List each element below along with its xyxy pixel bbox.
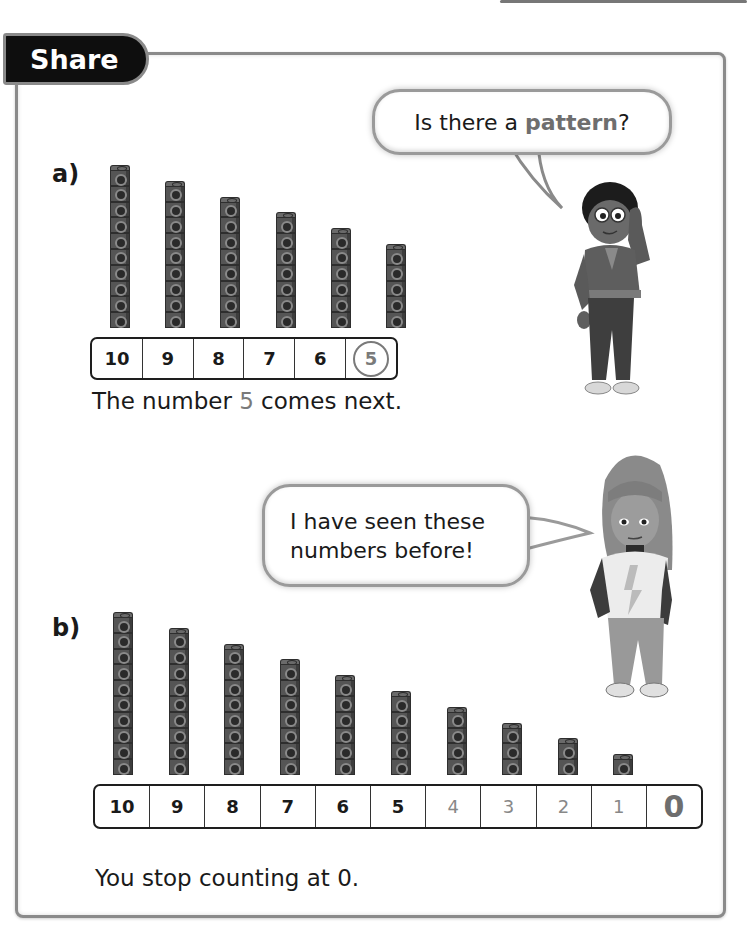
linking-cube-icon: [280, 696, 300, 712]
linking-cube-icon: [113, 680, 133, 696]
linking-cube-icon: [335, 712, 355, 728]
linking-cube-icon: [447, 759, 467, 775]
bubble-b-line1: I have seen these: [290, 507, 527, 536]
track-a-cell-9: 9: [143, 339, 194, 378]
linking-cube-icon: [331, 233, 351, 249]
linking-cube-icon: [169, 664, 189, 680]
caption-a: The number 5 comes next.: [92, 388, 402, 414]
linking-cube-icon: [386, 281, 406, 297]
linking-cube-icon: [169, 759, 189, 775]
linking-cube-icon: [220, 312, 240, 328]
linking-cube-icon: [110, 170, 130, 186]
track-b-cell-1: 1: [592, 786, 647, 827]
linking-cube-icon: [276, 265, 296, 281]
bubble-a-end: ?: [618, 110, 630, 135]
linking-cube-icon: [165, 296, 185, 312]
linking-cube-icon: [276, 249, 296, 265]
linking-cube-icon: [280, 728, 300, 744]
linking-cube-icon: [224, 664, 244, 680]
linking-cube-icon: [165, 312, 185, 328]
linking-cube-icon: [165, 217, 185, 233]
boy-character-icon: [570, 170, 665, 405]
section-title: Share: [30, 44, 119, 75]
part-a-label: a): [52, 160, 79, 188]
track-b-cell-2: 2: [537, 786, 592, 827]
linking-cube-icon: [391, 759, 411, 775]
track-b-cell-5: 5: [371, 786, 426, 827]
linking-cube-icon: [165, 249, 185, 265]
caption-b: You stop counting at 0.: [95, 865, 359, 891]
number-track-a: 1098765: [90, 337, 398, 380]
linking-cube-icon: [391, 712, 411, 728]
linking-cube-icon: [224, 696, 244, 712]
linking-cube-icon: [220, 265, 240, 281]
bubble-b-line2: numbers before!: [290, 536, 527, 565]
linking-cube-icon: [386, 296, 406, 312]
caption-a-text: The number: [92, 388, 239, 414]
caption-a-highlight: 5: [239, 388, 254, 414]
linking-cube-icon: [110, 265, 130, 281]
linking-cube-icon: [169, 728, 189, 744]
cube-tower-9: [165, 181, 185, 328]
linking-cube-icon: [169, 633, 189, 649]
linking-cube-icon: [165, 202, 185, 218]
speech-bubble-a: Is there a pattern?: [372, 89, 672, 155]
linking-cube-icon: [113, 664, 133, 680]
linking-cube-icon: [335, 743, 355, 759]
linking-cube-icon: [113, 617, 133, 633]
section-tab-share: Share: [3, 33, 149, 85]
linking-cube-icon: [224, 759, 244, 775]
linking-cube-icon: [224, 743, 244, 759]
linking-cube-icon: [613, 759, 633, 775]
linking-cube-icon: [165, 281, 185, 297]
linking-cube-icon: [502, 728, 522, 744]
linking-cube-icon: [220, 296, 240, 312]
linking-cube-icon: [224, 649, 244, 665]
linking-cube-icon: [502, 743, 522, 759]
linking-cube-icon: [276, 296, 296, 312]
linking-cube-icon: [220, 202, 240, 218]
linking-cube-icon: [276, 281, 296, 297]
track-b-cell-3: 3: [481, 786, 536, 827]
linking-cube-icon: [220, 233, 240, 249]
linking-cube-icon: [391, 743, 411, 759]
linking-cube-icon: [110, 186, 130, 202]
linking-cube-icon: [386, 249, 406, 265]
linking-cube-icon: [110, 249, 130, 265]
linking-cube-icon: [280, 759, 300, 775]
linking-cube-icon: [224, 712, 244, 728]
linking-cube-icon: [113, 649, 133, 665]
cube-tower-8: [220, 197, 240, 328]
cube-tower-7: [276, 212, 296, 328]
linking-cube-icon: [335, 680, 355, 696]
cube-tower-6: [335, 675, 355, 775]
cube-tower-9: [169, 628, 189, 775]
track-b-cell-8: 8: [205, 786, 260, 827]
number-track-b: 109876543210: [93, 784, 703, 829]
track-a-cell-5: 5: [346, 339, 396, 378]
circled-number: 5: [353, 341, 389, 377]
linking-cube-icon: [447, 712, 467, 728]
cube-tower-8: [224, 644, 244, 775]
caption-a-text-end: comes next.: [254, 388, 402, 414]
linking-cube-icon: [113, 712, 133, 728]
linking-cube-icon: [220, 249, 240, 265]
linking-cube-icon: [558, 743, 578, 759]
linking-cube-icon: [280, 680, 300, 696]
linking-cube-icon: [220, 281, 240, 297]
linking-cube-icon: [110, 281, 130, 297]
linking-cube-icon: [331, 281, 351, 297]
cube-tower-1: [613, 754, 633, 775]
linking-cube-icon: [280, 743, 300, 759]
linking-cube-icon: [280, 664, 300, 680]
linking-cube-icon: [502, 759, 522, 775]
track-b-cell-10: 10: [95, 786, 150, 827]
page-top-rule: [500, 0, 747, 3]
linking-cube-icon: [113, 633, 133, 649]
linking-cube-icon: [335, 696, 355, 712]
linking-cube-icon: [110, 312, 130, 328]
cube-tower-4: [447, 707, 467, 775]
linking-cube-icon: [169, 696, 189, 712]
linking-cube-icon: [113, 743, 133, 759]
bubble-a-text: Is there a: [414, 110, 525, 135]
